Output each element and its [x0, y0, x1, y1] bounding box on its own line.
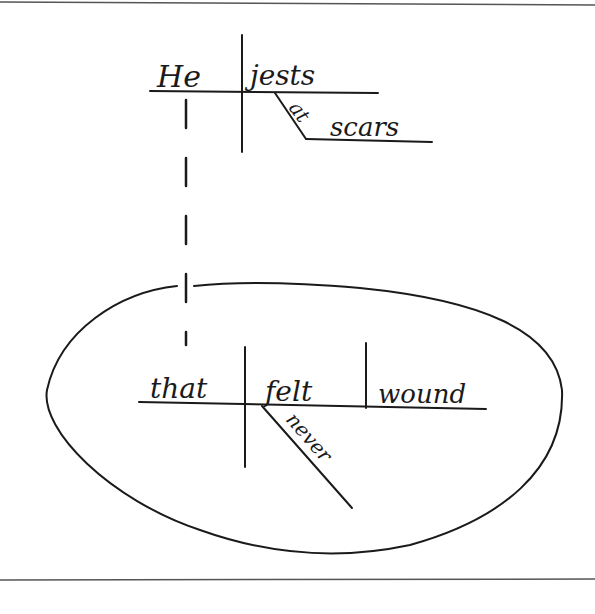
- direct-object-word: wound: [378, 379, 466, 409]
- bottom-border: [0, 579, 595, 580]
- relative-subject-word: that: [150, 372, 208, 405]
- relative-clause: that felt wound never: [139, 343, 486, 508]
- relative-verb-word: felt: [263, 375, 313, 408]
- top-border: [0, 2, 595, 5]
- prepositional-object-word: scars: [330, 112, 399, 142]
- preposition-word: at: [284, 96, 316, 127]
- verb-word: jests: [244, 59, 315, 92]
- main-clause: He jests at scars: [150, 35, 432, 152]
- subject-word: He: [156, 59, 201, 94]
- sentence-diagram: He jests at scars that felt wound never: [0, 0, 595, 614]
